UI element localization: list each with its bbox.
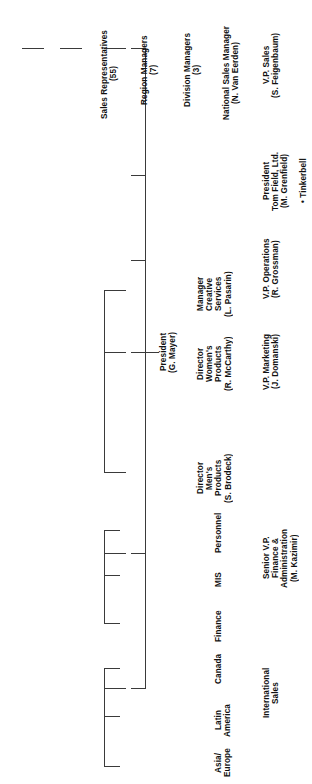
node-sales-reps-count: (55): [109, 14, 118, 134]
connector-latin-america: [104, 716, 120, 717]
node-vp-marketing-name: (J. Domanski): [271, 312, 280, 412]
node-vp-sales: V.P. Sales (S. Feigenbaum): [262, 10, 290, 120]
connector-director-mens: [104, 472, 126, 473]
node-tom-field-note: • Tinkerbell: [299, 128, 308, 234]
connector-president: [145, 352, 159, 353]
node-sales-reps-title: Sales Representatives: [100, 29, 109, 118]
node-canada-title: Canada: [214, 654, 223, 684]
connector-senior-vp: [131, 553, 146, 554]
connector-sales-chain-3: [22, 48, 44, 49]
node-latin-america-title: Latin America: [214, 704, 232, 737]
node-president-title: President: [159, 333, 168, 371]
node-finance: Finance: [214, 604, 223, 648]
node-vp-marketing-title: V.P. Marketing: [262, 334, 271, 390]
node-senior-vp-name: (M. Kazimir): [290, 508, 299, 608]
node-asia-europe: Asia/ Europe: [214, 742, 232, 784]
node-personnel-title: Personnel: [214, 513, 223, 554]
connector-vp-marketing: [131, 352, 146, 353]
connector-seniorvp-branch: [104, 553, 126, 554]
node-director-womens-products: Director Women's Products (R. McCarthy): [196, 318, 242, 410]
connector-finance: [104, 623, 120, 624]
node-personnel: Personnel: [214, 508, 223, 558]
node-region-managers-title: Region Managers: [140, 35, 149, 105]
connector-canada: [104, 668, 120, 669]
node-vp-operations: V.P. Operations (R. Grossman): [262, 218, 290, 320]
connector-vp-operations: [131, 260, 146, 261]
connector-manager-creative: [104, 290, 126, 291]
node-vp-operations-name: (R. Grossman): [271, 218, 280, 320]
spine-main: [145, 48, 146, 688]
node-tom-field-title: President Tom Field, Ltd.: [262, 151, 280, 210]
node-nsm-name: (N. Van Eerden): [231, 10, 240, 135]
connector-director-womens: [104, 352, 124, 353]
node-division-managers-count: (3): [192, 18, 201, 122]
node-national-sales-manager: National Sales Manager (N. Van Eerden): [222, 10, 250, 135]
spine-international: [104, 668, 105, 766]
node-mis: MIS: [214, 566, 223, 594]
node-director-mens-title: Director Men's Products: [196, 460, 223, 496]
connector-international-sales: [131, 688, 146, 689]
node-region-managers: Region Managers (7): [140, 22, 168, 118]
node-asia-europe-title: Asia/ Europe: [214, 749, 232, 778]
node-director-mens-name: (S. Brodeck): [224, 436, 233, 520]
connector-mis: [104, 575, 120, 576]
node-vp-operations-title: V.P. Operations: [262, 239, 271, 300]
spine-marketing: [104, 290, 105, 472]
node-president: President (G. Mayer): [159, 300, 187, 404]
node-vp-marketing: V.P. Marketing (J. Domanski): [262, 312, 290, 412]
connector-asia-europe: [104, 766, 120, 767]
node-senior-vp: Senior V.P. Finance & Administration (M.…: [262, 508, 308, 608]
node-director-womens-title: Director Women's Products: [196, 346, 223, 383]
spine-senior-vp: [104, 530, 105, 623]
node-president-name: (G. Mayer): [168, 300, 177, 404]
connector-sales-chain-2: [60, 48, 82, 49]
connector-intl-branch: [104, 688, 126, 689]
node-nsm-title: National Sales Manager: [222, 25, 231, 119]
node-sales-representatives: Sales Representatives (55): [100, 14, 128, 134]
node-canada: Canada: [214, 648, 223, 690]
node-international-sales-title: International Sales: [262, 668, 280, 718]
node-latin-america: Latin America: [214, 694, 232, 746]
node-region-managers-count: (7): [149, 22, 158, 118]
node-division-managers: Division Managers (3): [183, 18, 211, 122]
node-finance-title: Finance: [214, 610, 223, 642]
connector-personnel: [104, 530, 120, 531]
node-director-womens-name: (R. McCarthy): [224, 318, 233, 410]
node-manager-creative-title: Manager Creative Services: [196, 277, 223, 312]
node-senior-vp-title: Senior V.P. Finance & Administration: [262, 528, 289, 587]
node-international-sales: International Sales: [262, 654, 280, 732]
node-vp-sales-title: V.P. Sales: [262, 46, 271, 84]
node-division-managers-title: Division Managers: [183, 33, 192, 107]
connector-tom-field: [131, 175, 146, 176]
node-vp-sales-name: (S. Feigenbaum): [271, 10, 280, 120]
node-mis-title: MIS: [214, 573, 223, 588]
org-chart: President (G. Mayer) V.P. Sales (S. Feig…: [0, 0, 312, 784]
